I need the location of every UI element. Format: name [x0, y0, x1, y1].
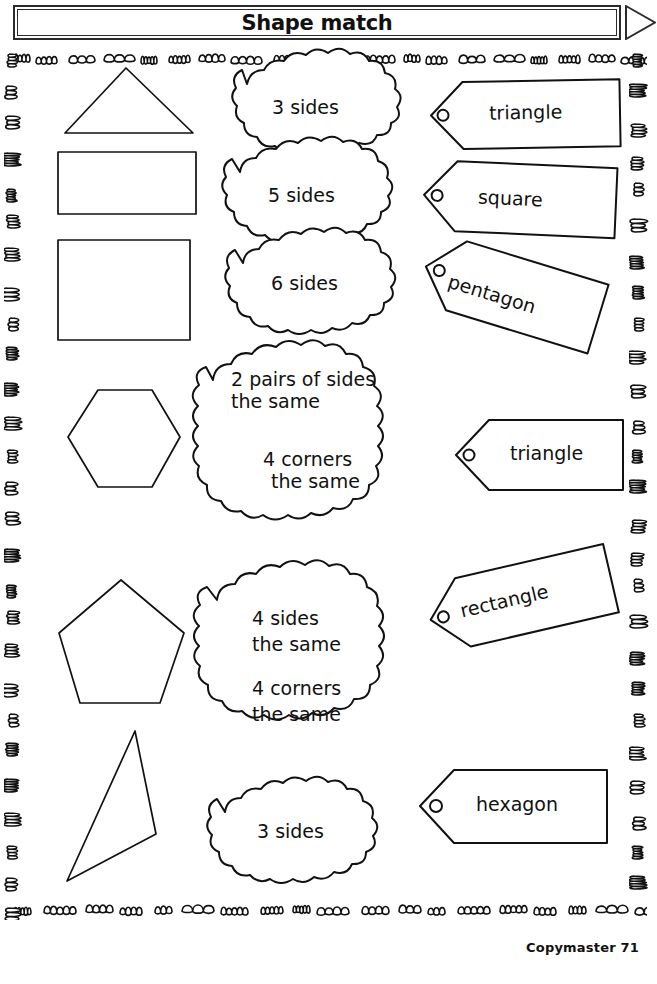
cloud-puff-icon [231, 56, 262, 64]
cloud-puff-icon [69, 56, 95, 64]
cloud-puff-icon [631, 520, 646, 533]
cloud-puff-icon [631, 553, 644, 566]
tag-rectangle[interactable] [420, 556, 616, 646]
cloud-puff-icon [7, 611, 20, 624]
cloud-5-sides[interactable] [221, 156, 407, 238]
cloud-puff-icon [6, 585, 16, 598]
cloud-2-pairs[interactable] [198, 348, 448, 528]
cloud-puff-icon [494, 54, 525, 62]
cloud-puff-icon [5, 482, 18, 495]
cloud-puff-icon [7, 846, 17, 859]
cloud-puff-icon [534, 907, 556, 915]
cloud-puff-icon [6, 347, 19, 360]
cloud-puff-icon [633, 817, 647, 830]
cloud-puff-icon [634, 318, 644, 331]
border-left [4, 48, 26, 920]
cloud-puff-icon [4, 248, 20, 261]
cloud-puff-icon [458, 907, 490, 914]
cloud-puff-icon [634, 579, 644, 592]
shape-triangle-scalene[interactable] [65, 729, 158, 883]
cloud-puff-icon [7, 54, 17, 67]
shape-pentagon[interactable] [57, 578, 186, 705]
cloud-puff-icon [317, 907, 349, 915]
shape-rectangle[interactable] [56, 150, 198, 216]
arrow-right-icon [625, 5, 656, 40]
border-bottom [10, 898, 647, 920]
cloud-puff-icon [274, 55, 290, 62]
tag-triangle-2[interactable] [454, 418, 625, 492]
cloud-puff-icon [8, 318, 19, 331]
cloud-puff-icon [531, 56, 547, 64]
cloud-puff-icon [86, 905, 113, 913]
cloud-puff-icon [634, 183, 644, 196]
shape-triangle-isosceles[interactable] [58, 64, 198, 138]
cloud-puff-icon [8, 714, 19, 727]
cloud-puff-icon [4, 549, 21, 562]
cloud-6-sides[interactable] [224, 247, 410, 329]
cloud-puff-icon [5, 878, 18, 891]
cloud-puff-icon [426, 56, 447, 64]
cloud-puff-icon [6, 189, 17, 202]
tag-square[interactable] [420, 162, 618, 237]
cloud-puff-icon [104, 55, 135, 62]
cloud-puff-icon [629, 652, 645, 665]
cloud-puff-icon [404, 54, 420, 62]
cloud-puff-icon [6, 743, 19, 756]
cloud-puff-icon [4, 153, 21, 166]
border-right [629, 48, 651, 920]
cloud-puff-icon [631, 124, 647, 137]
cloud-puff-icon [596, 905, 628, 913]
cloud-puff-icon [630, 219, 648, 232]
cloud-puff-icon [155, 906, 172, 914]
cloud-puff-icon [632, 286, 644, 299]
cloud-puff-icon [182, 905, 214, 913]
cloud-puff-icon [569, 906, 586, 914]
cloud-puff-icon [4, 417, 22, 430]
cloud-puff-icon [632, 682, 645, 695]
cloud-puff-icon [559, 55, 580, 63]
tag-triangle-1[interactable] [429, 79, 622, 150]
cloud-puff-icon [4, 644, 19, 657]
cloud-puff-icon [633, 421, 646, 434]
shape-hexagon[interactable] [66, 388, 182, 489]
cloud-puff-icon [631, 157, 644, 170]
cloud-puff-icon [629, 747, 646, 760]
cloud-puff-icon [399, 905, 421, 913]
cloud-puff-icon [632, 450, 642, 463]
cloud-puff-icon [629, 876, 647, 889]
cloud-puff-icon [326, 56, 352, 64]
cloud-puff-icon [634, 714, 645, 727]
cloud-puff-icon [199, 54, 225, 62]
cloud-puff-icon [293, 905, 310, 913]
title-banner: Shape match [13, 5, 656, 42]
cloud-puff-icon [7, 215, 21, 228]
cloud-puff-icon [36, 57, 57, 65]
cloud-puff-icon [630, 781, 645, 794]
cloud-puff-icon [221, 907, 248, 915]
copymaster-label: Copymaster 71 [526, 940, 639, 955]
cloud-puff-icon [5, 512, 20, 525]
page-title: Shape match [13, 5, 621, 40]
cloud-4-sides[interactable] [202, 568, 444, 742]
cloud-puff-icon [4, 383, 19, 396]
shape-square[interactable] [56, 238, 192, 342]
cloud-puff-icon [459, 55, 485, 63]
tag-hexagon[interactable] [418, 768, 609, 845]
cloud-puff-icon [629, 351, 646, 364]
cloud-puff-icon [5, 86, 17, 99]
cloud-puff-icon [632, 846, 643, 859]
cloud-puff-icon [169, 55, 190, 63]
cloud-puff-icon [632, 54, 642, 67]
cloud-puff-icon [4, 684, 18, 697]
cloud-puff-icon [631, 385, 646, 398]
cloud-puff-icon [4, 779, 19, 792]
cloud-puff-icon [6, 116, 20, 129]
cloud-puff-icon [8, 450, 18, 463]
cloud-puff-icon [5, 908, 21, 920]
cloud-3-sides-top[interactable] [228, 68, 414, 150]
tag-pentagon[interactable] [410, 248, 600, 340]
cloud-puff-icon [630, 615, 648, 628]
cloud-puff-icon [428, 908, 445, 915]
cloud-puff-icon [629, 84, 647, 97]
cloud-3-sides-bottom[interactable] [206, 796, 392, 878]
